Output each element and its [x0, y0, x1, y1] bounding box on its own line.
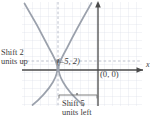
annotation-shift-up: Shift 2 units up	[1, 49, 28, 66]
annotation-shift-left: Shift 5 units left	[62, 100, 92, 117]
graph-figure: Shift 2 units up Shift 5 units left (–5,…	[0, 0, 154, 138]
vertex-coordinate-label: (–5, 2)	[57, 57, 80, 66]
annotation-shift-up-line2: units up	[1, 58, 28, 67]
coordinate-plane-svg	[0, 0, 154, 138]
x-axis-label: x	[146, 61, 150, 69]
annotation-shift-left-line2: units left	[62, 109, 92, 118]
origin-coordinate-label: (0, 0)	[100, 70, 119, 79]
grid-background	[22, 2, 142, 106]
